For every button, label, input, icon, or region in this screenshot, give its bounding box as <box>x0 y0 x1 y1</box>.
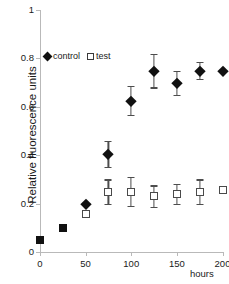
x-tick-label: 100 <box>116 258 146 269</box>
y-tick-label: 0.8 <box>10 53 34 63</box>
data-point-overlap <box>59 224 67 232</box>
data-point-control <box>217 65 228 76</box>
y-axis-line <box>40 10 41 252</box>
y-tick <box>36 204 41 205</box>
error-bar-cap <box>128 86 135 87</box>
error-bar-cap <box>196 62 203 63</box>
error-bar-cap <box>151 207 158 208</box>
chart-container: Relative fluorescence units 00.20.40.60.… <box>0 0 229 284</box>
error-bar-cap <box>196 179 203 180</box>
x-axis-title: hours <box>190 268 214 279</box>
error-bar-cap <box>173 204 180 205</box>
x-tick-label: 150 <box>162 258 192 269</box>
error-bar-cap <box>105 167 112 168</box>
x-tick-label: 50 <box>71 258 101 269</box>
data-point-control <box>103 149 114 160</box>
y-tick <box>36 155 41 156</box>
x-tick <box>223 252 224 256</box>
x-tick <box>177 252 178 256</box>
error-bar-cap <box>173 184 180 185</box>
error-bar-cap <box>196 79 203 80</box>
y-tick-label: 1 <box>10 5 34 15</box>
data-point-test <box>219 186 227 194</box>
x-tick <box>40 252 41 256</box>
filled-diamond-icon <box>43 51 53 61</box>
open-square-icon <box>87 53 94 60</box>
data-point-test <box>196 188 204 196</box>
y-tick-label: 0.6 <box>10 102 34 112</box>
data-point-test <box>173 190 181 198</box>
chart-legend: control test <box>44 51 111 61</box>
data-point-control <box>172 77 183 88</box>
data-point-control <box>126 95 137 106</box>
error-bar-cap <box>128 115 135 116</box>
data-point-test <box>150 192 158 200</box>
x-tick <box>86 252 87 256</box>
y-tick <box>36 58 41 59</box>
legend-entry-test: test <box>87 51 111 61</box>
data-point-overlap <box>36 236 44 244</box>
error-bar-cap <box>196 204 203 205</box>
y-tick-label: 0.4 <box>10 150 34 160</box>
x-tick <box>131 252 132 256</box>
data-point-test <box>82 210 90 218</box>
error-bar-cap <box>151 185 158 186</box>
error-bar-cap <box>173 95 180 96</box>
legend-entry-control: control <box>44 51 80 61</box>
error-bar-cap <box>173 71 180 72</box>
error-bar-cap <box>128 177 135 178</box>
data-point-control <box>149 65 160 76</box>
error-bar-cap <box>105 204 112 205</box>
data-point-test <box>104 188 112 196</box>
data-point-control <box>80 198 91 209</box>
legend-label-test: test <box>96 51 111 61</box>
legend-label-control: control <box>53 51 80 61</box>
data-point-control <box>194 65 205 76</box>
error-bar-cap <box>151 54 158 55</box>
data-point-test <box>127 188 135 196</box>
error-bar-cap <box>151 87 158 88</box>
error-bar-cap <box>128 206 135 207</box>
y-tick <box>36 107 41 108</box>
x-tick-label: 0 <box>25 258 55 269</box>
y-tick-label: 0.2 <box>10 199 34 209</box>
y-tick <box>36 10 41 11</box>
y-tick-label: 0 <box>10 247 34 257</box>
error-bar-cap <box>105 141 112 142</box>
error-bar-cap <box>105 179 112 180</box>
